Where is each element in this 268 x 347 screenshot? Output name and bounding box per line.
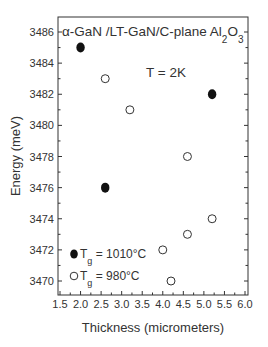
legend: Tg = 1010°C Tg = 980°C xyxy=(70,247,146,288)
data-point-filled xyxy=(208,89,216,99)
chart-title: α-GaN /LT-GaN/C-plane Al2O3 xyxy=(62,24,244,45)
y-tick-label: 3476 xyxy=(30,182,54,194)
temperature-annotation: T = 2K xyxy=(146,65,186,80)
y-tick-label: 3478 xyxy=(30,151,54,163)
x-tick-label: 5.5 xyxy=(217,298,232,310)
data-point-open xyxy=(208,215,216,223)
y-tick-label: 3480 xyxy=(30,119,54,131)
y-tick-label: 3474 xyxy=(30,213,54,225)
y-tick-label: 3486 xyxy=(30,26,54,38)
y-axis-label: Energy (meV) xyxy=(8,116,23,196)
x-tick-label: 5.0 xyxy=(196,298,211,310)
x-tick-label: 2.0 xyxy=(73,298,88,310)
y-tick-label: 3472 xyxy=(30,244,54,256)
scatter-chart: 1.52.02.53.03.54.04.55.05.56.03470347234… xyxy=(0,0,268,347)
x-tick-label: 4.0 xyxy=(155,298,170,310)
axis-ticks: 1.52.02.53.03.54.04.55.05.56.03470347234… xyxy=(30,26,253,310)
data-point-open xyxy=(167,277,175,285)
legend-label-980: Tg = 980°C xyxy=(80,269,140,288)
x-tick-label: 2.5 xyxy=(93,298,108,310)
data-point-open xyxy=(159,246,167,254)
x-tick-label: 3.0 xyxy=(114,298,129,310)
y-tick-label: 3484 xyxy=(30,57,54,69)
data-point-open xyxy=(183,230,191,238)
data-point-open xyxy=(126,106,134,114)
x-tick-label: 1.5 xyxy=(52,298,67,310)
x-axis-label: Thickness (micrometers) xyxy=(82,320,224,335)
legend-marker-filled xyxy=(70,250,78,259)
data-point-open xyxy=(101,75,109,83)
y-tick-label: 3470 xyxy=(30,275,54,287)
x-tick-label: 3.5 xyxy=(135,298,150,310)
data-point-filled xyxy=(101,183,109,193)
x-tick-label: 6.0 xyxy=(237,298,252,310)
y-tick-label: 3482 xyxy=(30,88,54,100)
x-tick-label: 4.5 xyxy=(176,298,191,310)
data-point-open xyxy=(183,153,191,161)
data-point-filled xyxy=(76,43,84,53)
legend-marker-open xyxy=(70,272,78,280)
legend-label-1010: Tg = 1010°C xyxy=(80,247,147,266)
